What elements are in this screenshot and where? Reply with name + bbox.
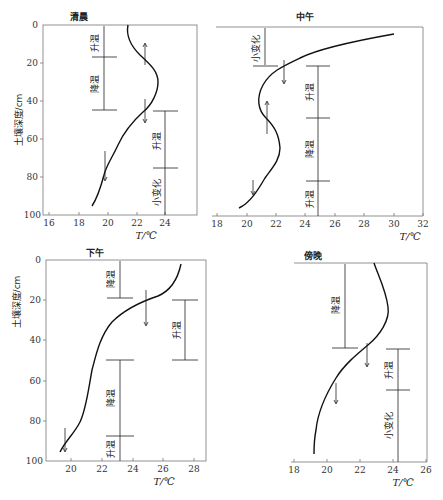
y-axis-label: 土壤深度/cm [13,94,24,147]
annotation-label: 降温 [105,389,116,407]
temperature-curve [239,34,394,208]
temperature-curve [314,263,388,454]
annotation-label: 降温 [304,140,315,158]
panel-title: 下午 [86,247,104,258]
x-tick: 22 [270,219,281,229]
annotation-label: 降温 [105,270,116,288]
annotation-label: 降温 [89,75,100,93]
x-tick: 24 [299,219,311,229]
panel-title: 傍晚 [304,250,322,261]
y-axis: 0 20 40 60 80 100 土壤深度/cm [11,255,46,466]
x-axis: 16 18 20 22 24 T/℃ [43,212,171,241]
y-axis: 0 20 40 60 80 100 土壤深度/cm [13,20,43,220]
y-tick: 0 [32,20,38,30]
annotation-label: 小变化 [250,35,261,62]
x-tick: 18 [288,465,300,475]
annotation-label: 升温 [90,34,100,52]
y-tick: 20 [30,295,42,305]
y-tick: 40 [27,96,39,106]
x-tick: 20 [321,465,333,475]
y-tick: 80 [30,416,42,426]
x-axis: 18 20 22 24 26 T/℃ [288,459,432,488]
annotation-label: 升温 [384,361,394,379]
panel-noon: 中午 18 20 22 24 26 28 30 32 T/℃ 小变化 [211,11,428,242]
y-tick: 60 [27,134,39,144]
y-tick: 0 [35,255,41,265]
annotation-label: 升温 [305,83,315,101]
panel-evening: 傍晚 18 20 22 24 26 T/℃ 降温 升温 小变化 [288,250,432,488]
x-tick: 24 [127,464,139,474]
temperature-curve [60,264,181,452]
panel-title: 清晨 [70,11,89,22]
plot-frame [46,260,206,461]
x-axis-label: T/℃ [135,230,156,241]
plot-frame [43,25,197,215]
soil-temperature-figure: 清晨 0 20 40 60 80 100 土壤深度/cm 16 18 20 22… [0,0,443,500]
y-tick: 80 [27,172,39,182]
y-tick: 60 [30,376,42,386]
x-axis-label: T/℃ [153,476,174,487]
x-tick: 22 [96,464,107,474]
y-tick: 100 [26,456,43,466]
x-tick: 18 [211,219,223,229]
annotation-label: 降温 [330,296,341,314]
annotation-brackets: 升温 降温 升温 小变化 [89,26,178,215]
x-tick: 26 [329,219,341,229]
annotation-label: 小变化 [383,412,394,439]
y-tick: 20 [27,58,39,68]
annotation-label: 小变化 [151,179,162,206]
annotation-brackets: 降温 升温 小变化 [330,264,410,462]
x-axis-label: T/℃ [399,231,420,242]
annotation-label: 升温 [172,321,182,339]
annotation-label: 升温 [106,440,116,458]
x-tick: 28 [358,219,370,229]
x-tick: 26 [420,465,432,475]
x-tick: 22 [354,465,365,475]
y-tick: 40 [30,335,42,345]
x-axis-label: T/℃ [392,477,413,488]
x-tick: 30 [388,219,400,229]
x-tick: 20 [65,464,77,474]
x-axis: 18 20 22 24 26 28 30 32 T/℃ [211,213,428,242]
panel-title: 中午 [296,11,314,22]
panel-morning: 清晨 0 20 40 60 80 100 土壤深度/cm 16 18 20 22… [13,11,197,241]
x-tick: 28 [188,464,200,474]
x-axis: 20 22 24 26 28 T/℃ [65,458,200,487]
annotation-label: 升温 [305,190,315,208]
panel-afternoon: 下午 0 20 40 60 80 100 土壤深度/cm 20 22 24 26… [11,247,206,487]
y-axis-label: 土壤深度/cm [11,276,22,329]
x-tick: 32 [417,219,428,229]
y-tick: 100 [24,210,41,220]
x-tick: 24 [159,218,171,228]
x-tick: 24 [387,465,399,475]
annotation-label: 升温 [152,132,162,150]
annotation-brackets: 小变化 升温 降温 升温 [250,28,330,216]
x-tick: 22 [131,218,142,228]
x-tick: 26 [157,464,169,474]
temperature-curve [92,25,158,206]
x-tick: 20 [241,219,253,229]
x-tick: 16 [43,218,55,228]
annotation-brackets: 降温 升温 降温 升温 [63,261,198,461]
x-tick: 20 [102,218,114,228]
x-tick: 18 [73,218,85,228]
